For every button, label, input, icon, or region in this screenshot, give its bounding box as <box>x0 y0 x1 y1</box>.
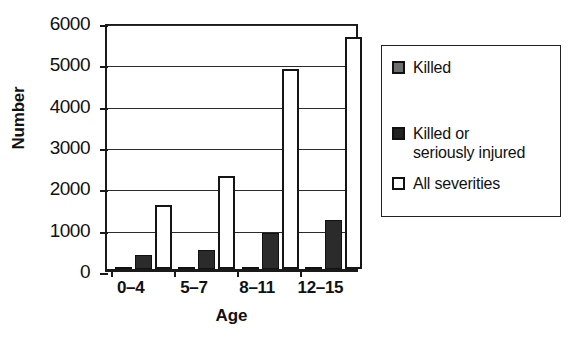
y-tick-label: 4000 <box>26 97 90 116</box>
bar-8-11-all-severities <box>282 69 299 269</box>
legend-swatch-all-icon <box>392 177 405 190</box>
y-tick-label: 0 <box>26 262 90 281</box>
bar-8-11-killed <box>242 267 259 269</box>
bar-0-4-killed <box>115 267 132 269</box>
bar-5-7-killed <box>178 267 195 269</box>
x-tick-label: 5–7 <box>162 278 225 298</box>
y-tick-label: 1000 <box>26 221 90 240</box>
x-tick-label: 0–4 <box>99 278 162 298</box>
y-tick-label: 5000 <box>26 55 90 74</box>
bar-12-15-killed-or-seriously-injured <box>325 220 342 269</box>
legend-swatch-ksi-icon <box>392 127 405 140</box>
bar-5-7-all-severities <box>218 176 235 269</box>
chart-legend: KilledKilled or seriously injuredAll sev… <box>381 45 561 217</box>
y-tick-label: 6000 <box>26 14 90 33</box>
bar-8-11-killed-or-seriously-injured <box>262 233 279 269</box>
x-tick-label: 8–11 <box>226 278 289 298</box>
bar-12-15-all-severities <box>345 37 362 269</box>
y-tick-label: 2000 <box>26 179 90 198</box>
x-axis-title: Age <box>105 306 358 326</box>
legend-label: All severities <box>413 174 500 193</box>
legend-item-all: All severities <box>392 174 500 193</box>
y-tick-label: 3000 <box>26 138 90 157</box>
bar-0-4-all-severities <box>155 205 172 269</box>
y-axis-tick-labels: 0100020003000400050006000 <box>22 0 90 337</box>
x-tick-label: 12–15 <box>289 278 352 298</box>
legend-label: Killed <box>413 58 451 77</box>
bar-12-15-killed <box>305 267 322 269</box>
legend-item-ksi: Killed or seriously injured <box>392 124 525 162</box>
legend-swatch-killed-icon <box>392 61 405 74</box>
legend-label: Killed or seriously injured <box>413 124 525 162</box>
x-axis-tick-labels: 0–45–78–1112–15 <box>105 0 358 337</box>
legend-item-killed: Killed <box>392 58 451 77</box>
bar-chart-figure: Number 0100020003000400050006000 0–45–78… <box>0 0 578 337</box>
bar-5-7-killed-or-seriously-injured <box>198 250 215 269</box>
bar-0-4-killed-or-seriously-injured <box>135 255 152 269</box>
